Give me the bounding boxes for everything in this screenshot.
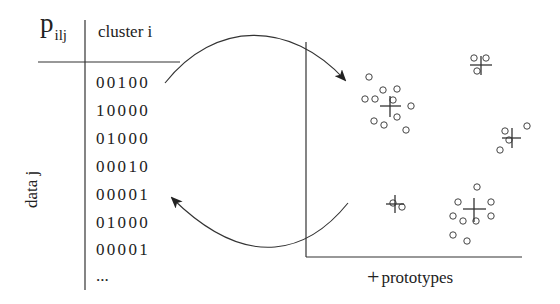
prototype-plus-icon — [463, 198, 486, 222]
prototype-plus-icon — [502, 128, 521, 148]
cluster-bottom-left — [386, 195, 405, 213]
cluster-top-left — [362, 74, 414, 133]
update-arrow — [172, 198, 348, 247]
diagram-graphics — [0, 0, 560, 304]
cluster-top-right — [470, 55, 492, 75]
assign-arrow — [165, 35, 345, 83]
cluster-right — [497, 123, 530, 153]
cluster-bottom-right — [450, 184, 494, 244]
